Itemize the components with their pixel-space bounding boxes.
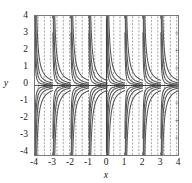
x-tick-label: -1 (79, 158, 97, 168)
y-tick-label: -4 (4, 147, 28, 157)
y-tick-label: -3 (4, 130, 28, 140)
y-axis-label: y (0, 78, 13, 88)
y-tick-label: 2 (6, 45, 28, 55)
y-tick-label: 4 (6, 11, 28, 21)
plot-canvas (0, 0, 192, 183)
x-tick-label: 0 (98, 158, 114, 168)
y-tick-label: 3 (6, 28, 28, 38)
x-tick-label: -4 (25, 158, 43, 168)
y-tick-label: -2 (4, 113, 28, 123)
x-tick-label: -3 (43, 158, 61, 168)
y-tick-label: -1 (4, 96, 28, 106)
y-tick-label: 1 (6, 62, 28, 72)
x-tick-label: 4 (170, 158, 186, 168)
x-tick-label: 3 (152, 158, 168, 168)
figure-slope-field: 4 3 2 1 0 -1 -2 -3 -4 y -4 -3 -2 -1 0 1 … (0, 0, 192, 183)
x-tick-label: -2 (61, 158, 79, 168)
x-tick-label: 2 (134, 158, 150, 168)
x-axis-label: x (98, 170, 114, 180)
axis-lines (35, 16, 179, 156)
x-tick-label: 1 (116, 158, 132, 168)
